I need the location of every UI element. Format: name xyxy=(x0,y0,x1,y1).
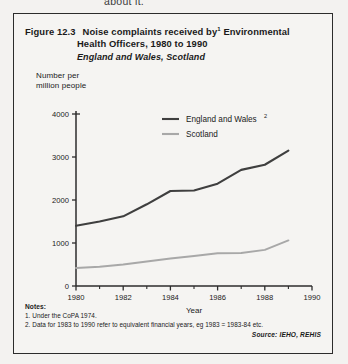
figure-notes: Notes: 1. Under the CoPA 1974. 2. Data f… xyxy=(25,302,325,329)
figure-box: Figure 12.3Noise complaints received by1… xyxy=(13,13,333,354)
series-line-scotland xyxy=(76,240,288,268)
x-tick-label: 1986 xyxy=(209,293,226,302)
notes-heading: Notes: xyxy=(25,302,325,311)
y-tick-label: 0 xyxy=(65,282,69,291)
page-bleed-text: about it. xyxy=(104,0,144,7)
note-item: 2. Data for 1983 to 1990 refer to equiva… xyxy=(25,320,325,329)
x-tick-label: 1988 xyxy=(256,293,273,302)
x-tick-label: 1990 xyxy=(304,293,321,302)
series-line-england-and-wales xyxy=(76,151,288,226)
legend-label: Scotland xyxy=(186,130,218,139)
y-tick-label: 4000 xyxy=(52,110,69,119)
legend-superscript: 2 xyxy=(264,113,267,119)
note-item: 1. Under the CoPA 1974. xyxy=(25,311,325,320)
y-tick-label: 3000 xyxy=(52,153,69,162)
figure-source: Source: IEHO, REHIS xyxy=(252,331,321,338)
page-background: about it. Figure 12.3Noise complaints re… xyxy=(0,0,348,364)
x-tick-label: 1980 xyxy=(68,293,85,302)
y-tick-label: 2000 xyxy=(52,196,69,205)
x-tick-label: 1982 xyxy=(115,293,132,302)
legend-label: England and Wales xyxy=(186,115,257,124)
x-tick-label: 1984 xyxy=(162,293,179,302)
y-tick-label: 1000 xyxy=(52,239,69,248)
